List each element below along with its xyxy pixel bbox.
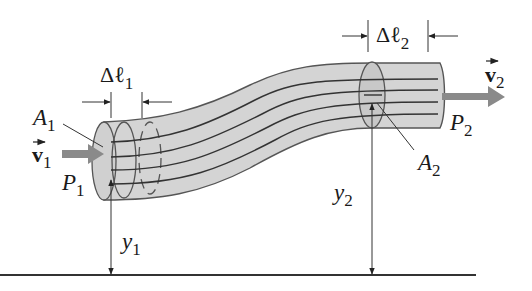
svg-text:A2: A2: [416, 150, 441, 180]
svg-text:v1: v1: [32, 142, 52, 172]
svg-text:y1: y1: [120, 229, 141, 259]
delta-l1-dimension: Δℓ1: [82, 62, 172, 118]
svg-text:Δℓ2: Δℓ2: [376, 22, 409, 53]
pressure1-label: P1: [61, 170, 85, 200]
bernoulli-diagram: Δℓ1 Δℓ2 A1 A2 v1 P1 v2 P2 y1 y: [0, 0, 532, 291]
area1-label: A1: [31, 105, 103, 147]
velocity2-arrow: v2: [442, 61, 505, 107]
flow-tube: [92, 62, 445, 200]
delta-l2-dimension: Δℓ2: [342, 20, 458, 53]
svg-text:A1: A1: [31, 105, 56, 135]
pressure2-label: P2: [449, 110, 473, 140]
svg-text:v2: v2: [485, 62, 505, 92]
svg-text:y2: y2: [332, 180, 353, 210]
svg-text:Δℓ1: Δℓ1: [100, 62, 133, 93]
